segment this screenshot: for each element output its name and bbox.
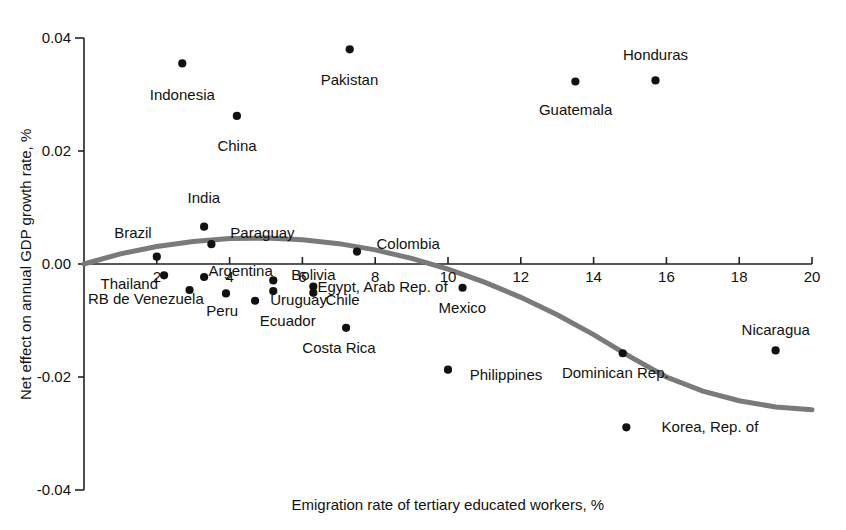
data-point-marker: [207, 240, 215, 248]
point-label: Mexico: [439, 300, 487, 315]
data-point-marker: [458, 284, 466, 292]
x-tick-label: 18: [709, 269, 769, 284]
point-label: Peru: [206, 303, 238, 318]
y-tick-label: -0.02: [37, 369, 71, 384]
point-label: Chile: [325, 292, 359, 307]
data-point-marker: [619, 349, 627, 357]
data-point-marker: [622, 423, 630, 431]
y-tick-label: 0.00: [42, 256, 71, 271]
point-label: Costa Rica: [302, 340, 375, 355]
point-label: Pakistan: [321, 72, 379, 87]
data-point-marker: [200, 223, 208, 231]
data-point-marker: [444, 366, 452, 374]
point-label: RB de Venezuela: [88, 291, 204, 306]
y-tick-label: -0.04: [37, 482, 71, 497]
y-tick-label: 0.04: [42, 30, 71, 45]
data-point-marker: [651, 76, 659, 84]
data-point-marker: [346, 45, 354, 53]
data-point-marker: [233, 112, 241, 120]
point-label: Dominican Rep.: [562, 365, 669, 380]
y-tick-label: 0.02: [42, 143, 71, 158]
point-label: China: [217, 138, 256, 153]
data-point-marker: [342, 324, 350, 332]
point-label: Honduras: [623, 47, 688, 62]
x-tick-label: 16: [636, 269, 696, 284]
y-axis-title: Net effect on annual GDP growth rate, %: [18, 128, 33, 399]
data-point-marker: [251, 297, 259, 305]
x-tick-label: 12: [491, 269, 551, 284]
point-label: Colombia: [376, 236, 439, 251]
point-label: Thailand: [101, 276, 159, 291]
point-label: Ecuador: [260, 313, 316, 328]
data-point-marker: [353, 247, 361, 255]
point-label: Paraguay: [230, 225, 294, 240]
data-point-marker: [571, 77, 579, 85]
point-label: India: [188, 190, 221, 205]
point-label: Indonesia: [150, 87, 215, 102]
point-label: Nicaragua: [742, 322, 810, 337]
data-point-marker: [772, 346, 780, 354]
scatter-chart: -0.04-0.020.000.020.04 2468101214161820 …: [0, 0, 846, 530]
data-point-marker: [153, 253, 161, 261]
point-label: Brazil: [114, 225, 152, 240]
plot-area: [0, 0, 846, 530]
point-label: Philippines: [470, 367, 543, 382]
x-axis-title: Emigration rate of tertiary educated wor…: [292, 497, 605, 512]
data-point-marker: [222, 289, 230, 297]
point-label: Korea, Rep. of: [662, 419, 759, 434]
point-label: Guatemala: [539, 102, 612, 117]
x-tick-label: 14: [564, 269, 624, 284]
data-point-marker: [178, 59, 186, 67]
point-label: Argentina: [209, 263, 273, 278]
x-tick-label: 20: [782, 269, 842, 284]
